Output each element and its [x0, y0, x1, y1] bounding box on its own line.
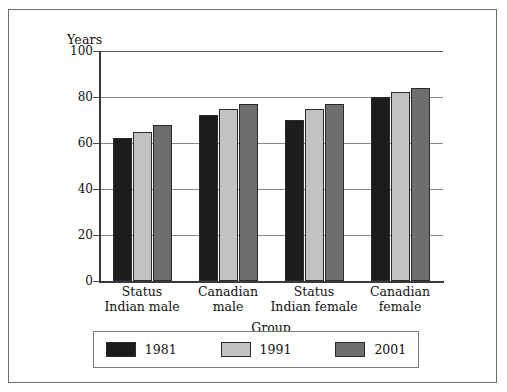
- y-tick-mark-20: [93, 235, 99, 236]
- bar-group-1: [113, 51, 172, 281]
- bar-group-2: [199, 51, 258, 281]
- legend-label-1991: 1991: [260, 342, 292, 357]
- legend-swatch-2001: [335, 342, 365, 357]
- category-label-4-line2: female: [347, 299, 453, 314]
- bar-1991-cat3: [305, 109, 324, 282]
- bar-1991-cat4: [391, 92, 410, 281]
- bar-1981-cat3: [285, 120, 304, 281]
- y-tick-mark-40: [93, 189, 99, 190]
- legend: 198119912001: [93, 331, 419, 368]
- legend-swatch-1991: [221, 342, 251, 357]
- legend-swatch-1981: [106, 342, 136, 357]
- y-tick-label-100: 100: [70, 44, 93, 58]
- y-tick-mark-80: [93, 97, 99, 98]
- bar-2001-cat2: [239, 104, 258, 281]
- bar-1991-cat2: [219, 109, 238, 282]
- bar-1981-cat2: [199, 115, 218, 281]
- bar-1981-cat1: [113, 138, 132, 281]
- y-tick-label-60: 60: [78, 136, 93, 150]
- bar-1991-cat1: [133, 132, 152, 282]
- bar-1981-cat4: [371, 97, 390, 281]
- y-tick-mark-100: [93, 51, 99, 52]
- bar-2001-cat3: [325, 104, 344, 281]
- y-axis-tick-labels: 020406080100: [65, 51, 93, 281]
- category-label-4: Canadianfemale: [347, 284, 453, 314]
- bar-group-3: [285, 51, 344, 281]
- bar-2001-cat4: [411, 88, 430, 281]
- legend-item-2001[interactable]: 2001: [335, 342, 406, 357]
- bar-group-4: [371, 51, 430, 281]
- category-label-4-line1: Canadian: [347, 284, 453, 299]
- legend-item-1981[interactable]: 1981: [106, 342, 177, 357]
- y-tick-label-80: 80: [78, 90, 93, 104]
- x-axis-line: [99, 281, 444, 283]
- bar-2001-cat1: [153, 125, 172, 281]
- legend-items: 198119912001: [94, 332, 418, 367]
- chart-plot-wrapper: Years 020406080100 StatusIndian maleCana…: [9, 10, 496, 382]
- legend-label-2001: 2001: [374, 342, 406, 357]
- x-axis-category-labels: StatusIndian maleCanadianmaleStatusIndia…: [99, 284, 443, 324]
- y-tick-label-20: 20: [78, 228, 93, 242]
- bars-layer: [99, 51, 443, 281]
- legend-item-1991[interactable]: 1991: [221, 342, 292, 357]
- y-tick-mark-0: [93, 281, 99, 282]
- legend-label-1981: 1981: [145, 342, 177, 357]
- y-tick-label-40: 40: [78, 182, 93, 196]
- figure-frame: Years 020406080100 StatusIndian maleCana…: [8, 9, 497, 383]
- y-tick-mark-60: [93, 143, 99, 144]
